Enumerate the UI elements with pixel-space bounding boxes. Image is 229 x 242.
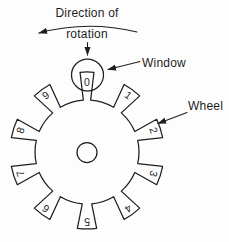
- wheel-digit-6: 6: [40, 202, 52, 215]
- wheel-digit-7: 7: [13, 169, 26, 178]
- wheel-digit-2: 2: [147, 126, 160, 135]
- wheel-outline: [11, 72, 162, 229]
- window-leader-arrow-icon: [108, 62, 140, 70]
- wheel-digit-0: 0: [84, 76, 90, 88]
- wheel-digit-9: 9: [40, 88, 52, 101]
- wheel-digit-5: 5: [84, 216, 90, 228]
- direction-label-line1: Direction of: [55, 6, 119, 20]
- wheel-digit-8: 8: [13, 125, 26, 134]
- counter-wheel-diagram: Direction of rotation 0123456789 Window …: [0, 0, 229, 242]
- wheel-label: Wheel: [188, 99, 223, 113]
- wheel-leader-arrow-icon: [158, 113, 187, 124]
- direction-label-line2: rotation: [66, 27, 108, 41]
- wheel-digit-3: 3: [147, 169, 160, 178]
- wheel-digit-1: 1: [122, 88, 134, 101]
- wheel-digit-4: 4: [122, 202, 134, 215]
- wheel-hub-hole: [77, 143, 97, 163]
- window-label: Window: [142, 56, 186, 70]
- diagram: Direction of rotation 0123456789 Window …: [0, 0, 229, 242]
